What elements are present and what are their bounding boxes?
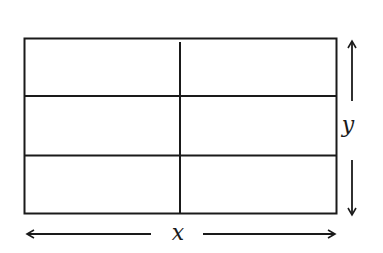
height-label: y xyxy=(341,112,355,137)
area-diagram: y x xyxy=(0,0,383,253)
width-label: x xyxy=(172,220,185,245)
